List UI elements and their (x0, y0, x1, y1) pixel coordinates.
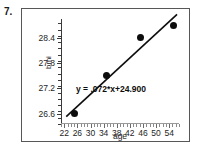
x-tick-label: 34 (99, 128, 108, 138)
figure-container: 7. bmi age 26.627.227.828.4 222630343842… (0, 0, 198, 152)
x-minor-tick (100, 124, 101, 127)
x-minor-tick (87, 124, 88, 127)
x-minor-tick (81, 124, 82, 127)
x-tick-label: 22 (60, 128, 69, 138)
x-tick-label: 26 (73, 128, 82, 138)
trendline (61, 19, 179, 124)
x-minor-tick (140, 124, 141, 127)
x-tick-label: 38 (112, 128, 121, 138)
y-tick-label: 28.4 (38, 33, 55, 43)
x-tick-label: 42 (125, 128, 134, 138)
x-minor-tick (84, 124, 85, 127)
x-minor-tick (97, 124, 98, 127)
x-minor-tick (172, 124, 173, 127)
x-minor-tick (176, 124, 177, 127)
x-minor-tick (94, 124, 95, 127)
x-minor-tick (136, 124, 137, 127)
x-minor-tick (127, 124, 128, 127)
x-minor-tick (133, 124, 134, 127)
x-minor-tick (166, 124, 167, 127)
x-minor-tick (163, 124, 164, 127)
y-tick-label: 27.8 (38, 58, 55, 68)
x-minor-tick (120, 124, 121, 127)
x-minor-tick (179, 124, 180, 127)
x-minor-tick (113, 124, 114, 127)
x-minor-tick (74, 124, 75, 127)
x-minor-tick (68, 124, 69, 127)
question-number: 7. (4, 7, 12, 17)
x-minor-tick (107, 124, 108, 127)
data-point (170, 22, 177, 29)
x-minor-tick (110, 124, 111, 127)
x-minor-tick (71, 124, 72, 127)
x-minor-tick (146, 124, 147, 127)
x-tick-label: 50 (151, 128, 160, 138)
x-minor-tick (159, 124, 160, 127)
x-tick-label: 46 (138, 128, 147, 138)
x-minor-tick (123, 124, 124, 127)
regression-equation-label: y = .072*x+24.900 (76, 84, 146, 94)
y-tick-label: 26.6 (38, 109, 55, 119)
chart-frame: bmi age 26.627.227.828.4 222630343842465… (21, 8, 190, 142)
plot-area: 26.627.227.828.4 222630343842465054 y = … (61, 19, 179, 124)
x-tick-label: 30 (86, 128, 95, 138)
x-minor-tick (150, 124, 151, 127)
x-tick-label: 54 (164, 128, 173, 138)
x-minor-tick (153, 124, 154, 127)
y-tick-label: 27.2 (38, 83, 55, 93)
x-minor-tick (61, 124, 62, 127)
